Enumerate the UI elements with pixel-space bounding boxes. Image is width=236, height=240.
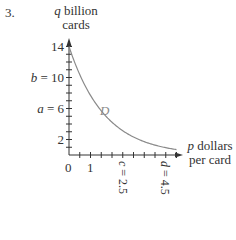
y-tick-label-2: 2 (58, 132, 65, 148)
curve-label-D: D (100, 103, 109, 119)
x-axis-label: p dollars per card (184, 139, 236, 167)
x-tick-label-0: 0 (65, 160, 72, 176)
x-axis-unit-line2: per card (189, 152, 231, 167)
y-tick-label-14: 14 (51, 39, 64, 55)
x-tick-label-c: c = 2.5 (115, 161, 130, 194)
x-axis-variable: p (187, 138, 194, 153)
x-axis-unit: dollars (197, 138, 232, 153)
y-tick-label-a6: a = 6 (37, 101, 64, 117)
y-axis (66, 38, 72, 155)
x-axis (69, 152, 183, 158)
x-tick-label-1: 1 (87, 160, 94, 176)
y-tick-label-b10: b = 10 (31, 70, 64, 86)
x-tick-label-d: d = 4.5 (157, 161, 172, 195)
demand-curve (69, 47, 177, 150)
